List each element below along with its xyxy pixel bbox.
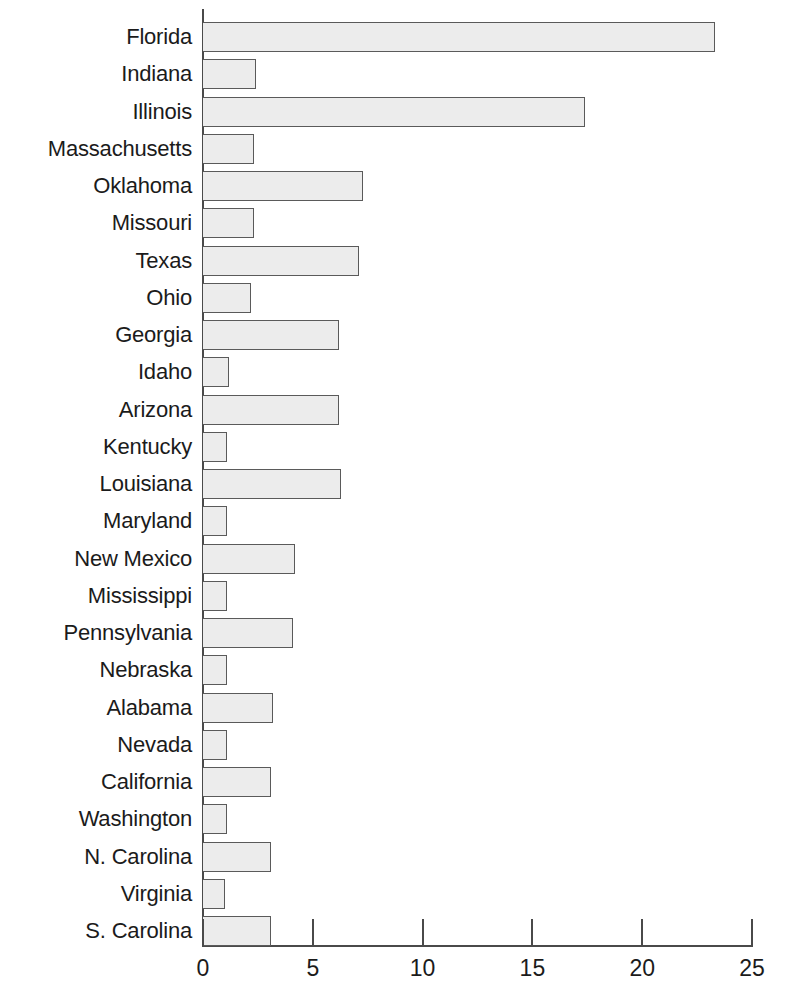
category-label: S. Carolina xyxy=(85,916,192,946)
bar-row: Indiana xyxy=(0,59,795,89)
bar xyxy=(203,246,359,276)
bar-row: Massachusetts xyxy=(0,134,795,164)
category-label: Alabama xyxy=(107,693,192,723)
bar xyxy=(203,842,271,872)
bar xyxy=(203,97,585,127)
bar xyxy=(203,618,293,648)
x-tick-label: 25 xyxy=(712,955,792,982)
x-tick-mark xyxy=(422,919,424,946)
bar-row: Virginia xyxy=(0,879,795,909)
category-label: California xyxy=(101,767,192,797)
category-label: Idaho xyxy=(138,357,192,387)
bar-row: Nevada xyxy=(0,730,795,760)
category-label: Virginia xyxy=(121,879,192,909)
bar xyxy=(203,655,227,685)
bar-row: Texas xyxy=(0,246,795,276)
bar xyxy=(203,283,251,313)
bar xyxy=(203,357,229,387)
bar-row: Nebraska xyxy=(0,655,795,685)
bar xyxy=(203,171,363,201)
category-label: N. Carolina xyxy=(84,842,192,872)
category-label: Louisiana xyxy=(100,469,192,499)
x-tick-mark xyxy=(531,919,533,946)
bar-row: Illinois xyxy=(0,97,795,127)
category-label: Washington xyxy=(79,804,192,834)
bar xyxy=(203,730,227,760)
bar-row: Arizona xyxy=(0,395,795,425)
x-tick-label: 0 xyxy=(163,955,243,982)
bar-row: Georgia xyxy=(0,320,795,350)
bar xyxy=(203,916,271,946)
category-label: Florida xyxy=(126,22,192,52)
bar xyxy=(203,320,339,350)
bar-chart: FloridaIndianaIllinoisMassachusettsOklah… xyxy=(0,0,795,1004)
category-label: Massachusetts xyxy=(48,134,192,164)
category-label: Nevada xyxy=(117,730,192,760)
bar-row: Washington xyxy=(0,804,795,834)
x-tick-mark xyxy=(312,919,314,946)
bar xyxy=(203,59,256,89)
bar-row: New Mexico xyxy=(0,544,795,574)
bar xyxy=(203,395,339,425)
category-label: Missouri xyxy=(112,208,192,238)
category-label: Texas xyxy=(136,246,192,276)
bar-row: S. Carolina xyxy=(0,916,795,946)
bar-row: Florida xyxy=(0,22,795,52)
category-label: Illinois xyxy=(132,97,192,127)
category-label: Pennsylvania xyxy=(64,618,192,648)
bar-row: Idaho xyxy=(0,357,795,387)
bar xyxy=(203,544,295,574)
bar-row: Louisiana xyxy=(0,469,795,499)
x-tick-mark xyxy=(202,919,204,946)
x-tick-mark xyxy=(641,919,643,946)
x-tick-mark xyxy=(751,919,753,946)
bar xyxy=(203,208,254,238)
bar xyxy=(203,432,227,462)
category-label: Mississippi xyxy=(88,581,192,611)
category-label: Oklahoma xyxy=(93,171,192,201)
bar-row: California xyxy=(0,767,795,797)
category-label: New Mexico xyxy=(74,544,192,574)
bar xyxy=(203,804,227,834)
category-label: Indiana xyxy=(121,59,192,89)
category-label: Arizona xyxy=(119,395,192,425)
bar-row: Oklahoma xyxy=(0,171,795,201)
bar xyxy=(203,693,273,723)
bar-row: Alabama xyxy=(0,693,795,723)
x-tick-label: 5 xyxy=(273,955,353,982)
x-tick-label: 15 xyxy=(492,955,572,982)
bar xyxy=(203,767,271,797)
x-tick-label: 10 xyxy=(383,955,463,982)
bar xyxy=(203,581,227,611)
x-tick-label: 20 xyxy=(602,955,682,982)
bar xyxy=(203,506,227,536)
bar-row: Kentucky xyxy=(0,432,795,462)
bar xyxy=(203,22,715,52)
bar-row: Missouri xyxy=(0,208,795,238)
category-label: Georgia xyxy=(115,320,192,350)
bar-row: Mississippi xyxy=(0,581,795,611)
bar xyxy=(203,469,341,499)
bar-row: Pennsylvania xyxy=(0,618,795,648)
category-label: Kentucky xyxy=(103,432,192,462)
category-label: Maryland xyxy=(103,506,192,536)
bar xyxy=(203,879,225,909)
bar-row: N. Carolina xyxy=(0,842,795,872)
category-label: Nebraska xyxy=(99,655,192,685)
bar-row: Ohio xyxy=(0,283,795,313)
bar xyxy=(203,134,254,164)
plot-area: FloridaIndianaIllinoisMassachusettsOklah… xyxy=(0,0,795,1004)
category-label: Ohio xyxy=(146,283,192,313)
bar-row: Maryland xyxy=(0,506,795,536)
